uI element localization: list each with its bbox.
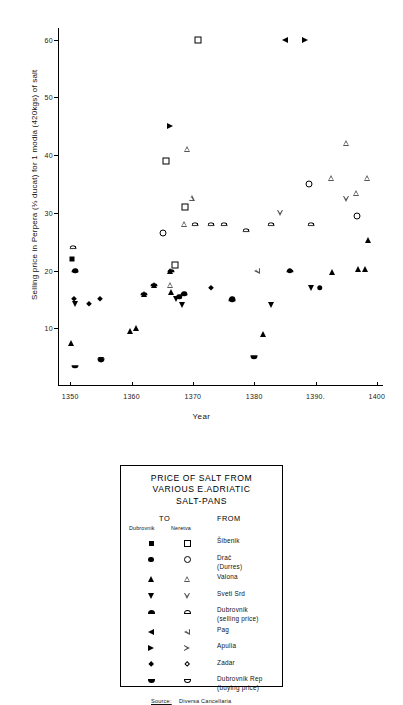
data-point (354, 212, 361, 219)
square-o-marker-icon (184, 540, 191, 547)
tri-lf-o-marker-icon (254, 268, 260, 274)
data-point (70, 256, 75, 261)
x-tick-label: 1370 (185, 393, 202, 400)
semi-up-o-marker-icon (308, 223, 315, 227)
semi-up-f-marker-icon (286, 269, 293, 273)
data-point (72, 365, 79, 369)
legend-row-label: Drač(Durres) (217, 553, 242, 571)
semi-up-o-marker-icon (268, 223, 275, 227)
data-point (167, 123, 173, 129)
tri-up-f-marker-icon (168, 289, 174, 295)
data-point (286, 269, 293, 273)
legend-row[interactable]: Drač(Durres) (129, 552, 274, 572)
tri-dn-f-marker-icon (72, 301, 78, 307)
data-point (69, 246, 76, 250)
data-point (173, 296, 179, 302)
legend-marker-neretva (181, 608, 193, 616)
legend-row-label: Dubrovnik Rep(buying price) (217, 674, 263, 692)
tri-up-o-marker-icon (353, 190, 359, 196)
data-point (181, 292, 188, 296)
y-tick-mark (54, 328, 58, 329)
data-point (179, 302, 185, 308)
legend-row[interactable]: Zadar (129, 657, 274, 674)
semi-dn-f-marker-icon (251, 355, 258, 359)
data-point (72, 297, 76, 301)
x-tick-mark (132, 382, 133, 386)
x-tick-label: 1360 (123, 393, 140, 400)
tri-up-o-marker-icon (184, 146, 190, 152)
tri-dn-f-marker-icon (268, 302, 274, 308)
data-point (208, 286, 212, 290)
data-point (184, 146, 190, 152)
tri-up-o-marker-icon (184, 576, 190, 582)
legend-marker-dubrovnik (145, 539, 157, 547)
semi-up-f-marker-icon (151, 283, 158, 287)
legend-row[interactable]: Valona (129, 571, 274, 588)
data-point (151, 283, 158, 287)
data-point (355, 266, 361, 272)
data-point (189, 195, 195, 201)
semi-dn-f-marker-icon (148, 679, 155, 683)
legend-row-label: Dubrovnik(selling price) (217, 605, 259, 623)
data-point (72, 301, 78, 307)
legend-title-line: PRICE OF SALT FROM (129, 473, 274, 484)
legend-subhead-neretva: Neretva (171, 525, 191, 531)
tri-lf-f-marker-icon (148, 629, 154, 635)
x-tick-label: 1350 (62, 393, 79, 400)
data-point (207, 223, 214, 227)
data-point (317, 285, 323, 291)
x-tick-mark (377, 382, 378, 386)
tri-dn-f-marker-icon (148, 593, 154, 599)
data-point (362, 266, 368, 272)
tri-dn-f-marker-icon (308, 285, 314, 291)
x-axis-line (58, 385, 383, 386)
semi-up-f-marker-icon (181, 292, 188, 296)
legend-marker-dubrovnik (145, 628, 157, 636)
tri-lf-f-marker-icon (282, 37, 288, 43)
legend-row-label: Pag (217, 625, 229, 634)
legend-panel: PRICE OF SALT FROMVARIOUS E.ADRIATICSALT… (120, 465, 283, 687)
data-point (86, 302, 90, 306)
legend-row[interactable]: Pag (129, 624, 274, 641)
diam-f-marker-icon (86, 301, 92, 307)
tri-dn-o-marker-icon (184, 593, 190, 599)
y-tick-label: 50 (23, 94, 58, 101)
tri-rt-f-marker-icon (302, 37, 308, 43)
legend-row[interactable]: Dubrovnik Rep(buying price) (129, 673, 274, 693)
legend-source-label: Source: (151, 698, 172, 704)
x-tick-mark (70, 382, 71, 386)
x-axis-label: Year (0, 412, 403, 421)
tri-lf-o-marker-icon (184, 629, 190, 635)
legend-row[interactable]: Šibenik (129, 535, 274, 552)
diam-f-marker-icon (71, 296, 77, 302)
square-f-marker-icon (70, 256, 75, 261)
data-point (181, 204, 188, 211)
tri-up-o-marker-icon (189, 195, 195, 201)
legend-row[interactable]: Dubrovnik(selling price) (129, 604, 274, 624)
semi-up-f-marker-icon (229, 298, 236, 302)
data-point (364, 175, 370, 181)
y-tick-label: 40 (23, 152, 58, 159)
circle-o-marker-icon (306, 180, 313, 187)
legend-marker-dubrovnik (145, 608, 157, 616)
legend-row-label: Apulia (217, 641, 236, 650)
x-tick-mark (254, 382, 255, 386)
tri-rt-o-marker-icon (184, 645, 190, 651)
tri-dn-o-marker-icon (277, 210, 283, 216)
plot-area: 102030405060 13501360137013801390.1400 (58, 28, 383, 386)
semi-up-f-marker-icon (148, 610, 155, 614)
data-point (160, 229, 167, 236)
legend-column-headers: TO FROM (129, 514, 274, 525)
legend-row[interactable]: Sveti Srd (129, 588, 274, 605)
legend-rows: ŠibenikDrač(Durres)ValonaSveti SrdDubrov… (129, 535, 274, 693)
tri-up-f-marker-icon (362, 266, 368, 272)
data-point (277, 210, 283, 216)
legend-row-label: Šibenik (217, 536, 240, 545)
legend-row[interactable]: Apulia (129, 640, 274, 657)
legend-marker-dubrovnik (145, 592, 157, 600)
data-point (191, 223, 198, 227)
legend-marker-dubrovnik (145, 661, 157, 669)
data-point (260, 331, 266, 337)
tri-dn-f-marker-icon (179, 302, 185, 308)
data-point (72, 269, 79, 273)
